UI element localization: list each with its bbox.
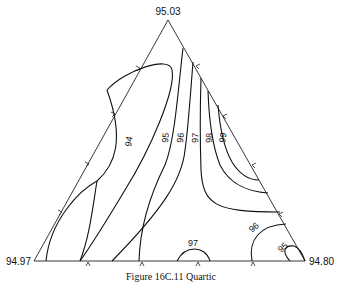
contour-label-98: 98 [204,133,214,143]
contour-label-97: 97 [190,133,200,143]
vertex-label-top: 95.03 [155,6,180,17]
contour-96 [112,62,193,261]
contour-label-96: 96 [175,132,186,143]
vertex-label-left: 94.97 [6,256,31,267]
bottom-edge-ticks [86,262,255,266]
contour-97-dome [177,249,210,261]
vertex-label-right: 94.80 [309,256,334,267]
contour-label-96-arc: 96 [247,220,261,234]
figure-caption: Figure 16C.11 Quartic [0,271,342,282]
contour-label-95: 95 [160,132,171,143]
contour-94 [46,64,172,261]
contour-label-95-loop: 95 [276,240,290,254]
contour-95 [139,48,183,261]
contour-label-94: 94 [123,136,135,148]
contour-label-97-dome: 97 [188,238,198,248]
contour-label-99: 99 [217,132,229,144]
